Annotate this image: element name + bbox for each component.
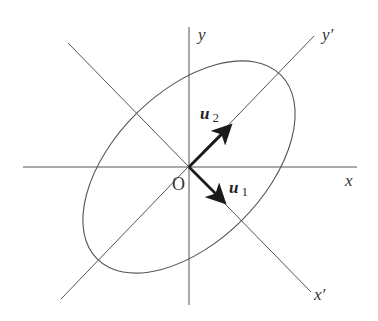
u1-label-sub: 1: [241, 184, 248, 199]
u1-vector-arrow: [189, 167, 221, 199]
u2-label-base: u: [200, 104, 209, 123]
u1-label: u1: [229, 178, 248, 199]
origin-label: O: [172, 174, 185, 194]
y-prime-axis-label: y′: [320, 25, 334, 44]
u1-label-base: u: [229, 178, 238, 197]
u2-label-sub: 2: [212, 110, 219, 125]
y-axis-label: y: [196, 25, 206, 44]
ellipse-principal-axes-diagram: y y′ x x′ O u2 u1: [0, 0, 378, 321]
u2-vector-arrow: [189, 129, 227, 167]
u2-label: u2: [200, 104, 219, 125]
x-prime-axis-label: x′: [313, 285, 326, 304]
x-axis-label: x: [344, 171, 353, 190]
